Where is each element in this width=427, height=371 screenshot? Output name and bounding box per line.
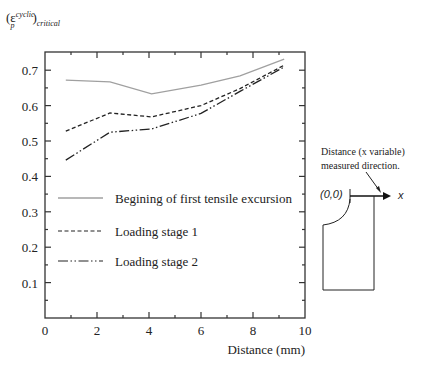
line-chart: 02468100.10.20.30.40.50.60.7 Begining of… (0, 0, 427, 371)
data-series (66, 59, 284, 160)
y-tick-label: 0.1 (22, 276, 38, 291)
series-line-0 (66, 59, 284, 94)
y-tick-label: 0.6 (22, 99, 39, 114)
y-tick-label: 0.3 (22, 205, 38, 220)
arrowhead-icon (383, 192, 391, 200)
x-tick-label: 10 (299, 323, 312, 338)
y-tick-label: 0.5 (22, 134, 38, 149)
series-line-1 (66, 65, 284, 131)
y-tick-label: 0.7 (22, 63, 39, 78)
pointer-line (366, 172, 379, 190)
diagram-caption-line1: Distance (x variable) (321, 145, 405, 159)
x-axis-title: Distance (mm) (227, 342, 305, 357)
diagram-caption-line2: measured direction. (321, 159, 400, 173)
x-tick-label: 8 (250, 323, 257, 338)
legend-label-0: Begining of first tensile excursion (115, 191, 292, 206)
legend: Begining of first tensile excursion Load… (58, 191, 292, 269)
x-tick-label: 0 (42, 323, 49, 338)
y-tick-label: 0.4 (22, 169, 39, 184)
legend-label-2: Loading stage 2 (115, 254, 198, 269)
x-axis-symbol: x (397, 189, 404, 201)
x-tick-label: 4 (146, 323, 153, 338)
legend-label-1: Loading stage 1 (115, 224, 198, 239)
y-tick-label: 0.2 (22, 240, 38, 255)
x-tick-label: 6 (198, 323, 205, 338)
axis-ticks (45, 52, 305, 318)
origin-label: (0,0) (320, 188, 343, 200)
plot-frame (45, 52, 305, 318)
notch-arc (323, 199, 350, 225)
x-tick-label: 2 (94, 323, 101, 338)
